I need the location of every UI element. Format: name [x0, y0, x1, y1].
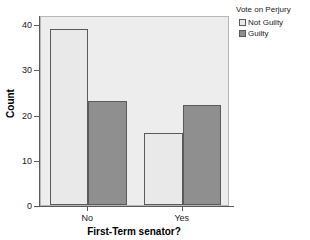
legend-item-not-guilty[interactable]: Not Guilty [239, 17, 310, 28]
x-tick-no [87, 206, 88, 211]
legend-swatch-guilty [239, 30, 246, 37]
legend-swatch-not-guilty [239, 19, 246, 26]
legend-label-guilty: Guilty [248, 29, 268, 38]
plot-panel [40, 16, 229, 206]
legend-label-not-guilty: Not Guilty [248, 18, 283, 27]
x-tick-label-no: No [63, 213, 111, 223]
y-tick-20 [34, 116, 39, 117]
y-tick-label-40: 40 [6, 21, 32, 30]
bar-chart-figure: 40 30 20 10 0 No Yes First-Term senator?… [0, 0, 310, 240]
legend-item-guilty[interactable]: Guilty [239, 28, 310, 39]
y-axis-title: Count [5, 74, 16, 134]
bar-yes-guilty [183, 105, 222, 205]
y-tick-0 [34, 206, 39, 207]
bar-yes-not-guilty [144, 133, 183, 205]
y-tick-label-10: 10 [6, 157, 32, 166]
legend-title: Vote on Perjury [236, 5, 310, 15]
y-axis-line [39, 16, 40, 206]
legend: Vote on Perjury Not Guilty Guilty [236, 5, 310, 39]
y-tick-30 [34, 70, 39, 71]
y-tick-40 [34, 25, 39, 26]
x-axis-title: First-Term senator? [34, 226, 234, 237]
x-tick-yes [182, 206, 183, 211]
bar-no-guilty [88, 101, 127, 205]
y-tick-10 [34, 161, 39, 162]
y-tick-label-0: 0 [6, 202, 32, 211]
x-axis-line [34, 206, 234, 207]
bar-no-not-guilty [50, 29, 89, 205]
x-tick-label-yes: Yes [158, 213, 206, 223]
